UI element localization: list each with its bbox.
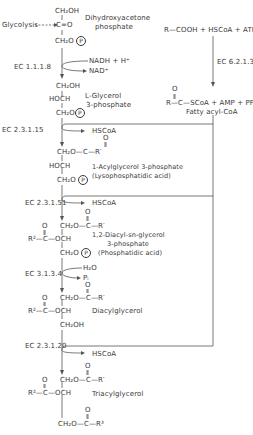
- phosphate-icon: P: [78, 175, 88, 185]
- enzyme-ec-2-3-1-51: EC 2.3.1.51: [25, 199, 67, 207]
- lpa-name-2: (Lysophosphatidic acid): [92, 172, 171, 180]
- dhap-line-2: C=O: [56, 21, 73, 29]
- activation-products: R—C—SCoA + AMP + PPᵢ: [166, 99, 253, 107]
- dag-ester-top: CH₂O—C—R′: [60, 294, 105, 302]
- pathway-diagram: Glycolysis CH₂OH C=O CH₂O P Dihydroxyace…: [0, 0, 253, 435]
- tag-ester-left: R²—C—OCH: [28, 389, 71, 397]
- phosphate-icon: P: [76, 36, 86, 46]
- pa-name-1: 1,2-Diacyl-sn-glycerol: [92, 231, 165, 239]
- nadh-curve: [62, 61, 88, 71]
- dag-ester-left: R²—C—OCH: [28, 307, 71, 315]
- pa-bottom: CH₂O P: [60, 248, 91, 258]
- g3p-line-3: CH₂OP: [56, 108, 85, 118]
- phosphate-icon: P: [75, 108, 85, 118]
- water-label: H₂O: [83, 264, 97, 272]
- enzyme-ec-1-1-1-8: EC 1.1.1.8: [14, 63, 51, 71]
- g3p-line-2: HOCH: [49, 95, 70, 103]
- enzyme-ec-3-1-3-4: EC 3.1.3.4: [25, 270, 62, 278]
- g3p-name-2: 3-phosphate: [86, 101, 131, 109]
- tag-carbonyl-o2: O: [42, 376, 48, 384]
- pa-carbonyl-o: O: [85, 208, 91, 216]
- dag-bottom: CH₂OH: [60, 321, 84, 329]
- lpa-name-1: 1-Acylglycerol 3-phosphate: [92, 163, 183, 171]
- dhap-line-1: CH₂OH: [55, 7, 79, 15]
- pa-ester-left: R²—C—OCH: [28, 235, 71, 243]
- acyl-coa-carbonyl-o: O: [172, 85, 178, 93]
- acyl-coa-feed-1: [62, 124, 213, 131]
- nad-label: NAD⁺: [89, 67, 109, 75]
- pa-name-3: (Phosphatidic acid): [98, 249, 162, 257]
- pa-ester-top: CH₂O—C—R′: [60, 222, 105, 230]
- tag-carbonyl-o: O: [85, 362, 91, 370]
- nadh-label: NADH + H⁺: [89, 57, 130, 65]
- enzyme-ec-2-3-1-20: EC 2.3.1.20: [25, 342, 67, 350]
- lpa-line-2: HOCH: [49, 162, 70, 170]
- lpa-carbonyl-o: O: [103, 134, 109, 142]
- tag-ester-bottom: CH₂O—C—R³: [58, 420, 104, 428]
- phosphate-icon: P: [81, 248, 91, 258]
- fatty-acyl-coa-name: Fatty acyl-CoA: [186, 108, 238, 116]
- lpa-line-3: CH₂O P: [57, 175, 88, 185]
- tag-ester-top: CH₂O—C—R′: [60, 376, 105, 384]
- g3p-name-1: L-Glycerol: [85, 92, 121, 100]
- dag-name: Diacylglycerol: [92, 307, 143, 315]
- g3p-line-1: CH₂OH: [56, 82, 80, 90]
- dag-carbonyl-o: O: [85, 281, 91, 289]
- lpa-ester: CH₂O—C—R′: [57, 148, 102, 156]
- glycolysis-label: Glycolysis: [2, 21, 38, 29]
- hscoa-label-2: HSCoA: [92, 199, 116, 207]
- dag-carbonyl-o2: O: [42, 294, 48, 302]
- activation-reactants: R—COOH + HSCoA + ATP: [164, 26, 253, 34]
- enzyme-ec-2-3-1-15: EC 2.3.1.15: [2, 126, 44, 134]
- acyl-coa-feed-2: [62, 196, 213, 203]
- h2o-curve: [62, 268, 82, 278]
- pa-carbonyl-o2: O: [42, 222, 48, 230]
- pa-name-2: 3-phosphate: [107, 240, 149, 248]
- tag-name: Triacylglycerol: [92, 390, 143, 398]
- enzyme-ec-6-2-1-3: EC 6.2.1.3: [217, 58, 253, 66]
- dhap-line-3: CH₂O P: [55, 36, 86, 46]
- dhap-name-2: phosphate: [95, 23, 133, 31]
- tag-carbonyl-o3: O: [85, 406, 91, 414]
- acyl-coa-feed-3: [62, 346, 213, 353]
- dhap-name-1: Dihydroxyacetone: [85, 14, 150, 22]
- hscoa-label-3: HSCoA: [92, 350, 116, 358]
